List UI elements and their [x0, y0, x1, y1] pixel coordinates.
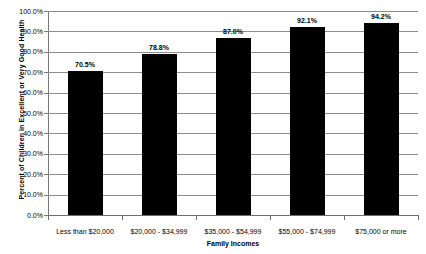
bar	[290, 27, 325, 215]
y-axis-tick-label: 100.0%	[3, 8, 43, 15]
y-axis-tick	[44, 154, 48, 155]
y-axis-tick-label: 20.0%	[3, 171, 43, 178]
bar-value-label: 70.5%	[55, 61, 115, 69]
y-axis-tick-label: 40.0%	[3, 130, 43, 137]
bar	[364, 23, 399, 215]
bar-value-label: 92.1%	[277, 17, 337, 25]
bar	[68, 71, 103, 215]
y-axis-tick-label: 70.0%	[3, 69, 43, 76]
bar	[142, 54, 177, 215]
y-axis-tick	[44, 174, 48, 175]
y-axis-tick-label: 10.0%	[3, 191, 43, 198]
plot-area	[48, 11, 418, 215]
x-axis-tick	[418, 216, 419, 220]
y-axis-tick-label: 80.0%	[3, 48, 43, 55]
x-axis-tick	[48, 216, 49, 220]
y-axis-tick	[44, 133, 48, 134]
x-axis-tick	[196, 216, 197, 220]
bar-chart: Percent of Children in Excellent or Very…	[0, 0, 426, 254]
y-axis-tick	[44, 113, 48, 114]
x-axis-tick-label: $55,000 - $74,999	[270, 228, 344, 236]
x-axis-tick-label: $75,000 or more	[344, 228, 418, 236]
y-axis-tick	[44, 195, 48, 196]
y-axis-tick-label: 0.0%	[3, 212, 43, 219]
y-axis-tick-label: 30.0%	[3, 150, 43, 157]
x-axis-tick-label: $35,000 - $54,999	[196, 228, 270, 236]
y-axis-tick-label: 90.0%	[3, 28, 43, 35]
x-axis-tick	[270, 216, 271, 220]
x-axis-title: Family Incomes	[48, 240, 418, 248]
x-axis-tick-label: $20,000 - $34,999	[122, 228, 196, 236]
x-axis-tick	[344, 216, 345, 220]
y-axis-tick-labels: 100.0%90.0%80.0%70.0%60.0%50.0%40.0%30.0…	[0, 0, 43, 254]
y-axis-tick-label: 60.0%	[3, 89, 43, 96]
y-axis-tick	[44, 215, 48, 216]
bar-value-label: 78.8%	[129, 44, 189, 52]
x-axis-tick	[122, 216, 123, 220]
y-axis-tick	[44, 93, 48, 94]
bar	[216, 38, 251, 215]
y-axis-tick	[44, 72, 48, 73]
y-axis-tick	[44, 52, 48, 53]
x-axis-line	[48, 215, 419, 216]
y-axis-tick-label: 50.0%	[3, 110, 43, 117]
y-axis-tick	[44, 31, 48, 32]
bar-value-label: 87.0%	[203, 28, 263, 36]
bar-value-label: 94.2%	[351, 13, 411, 21]
y-axis-tick	[44, 11, 48, 12]
x-axis-tick-label: Less than $20,000	[48, 228, 122, 236]
